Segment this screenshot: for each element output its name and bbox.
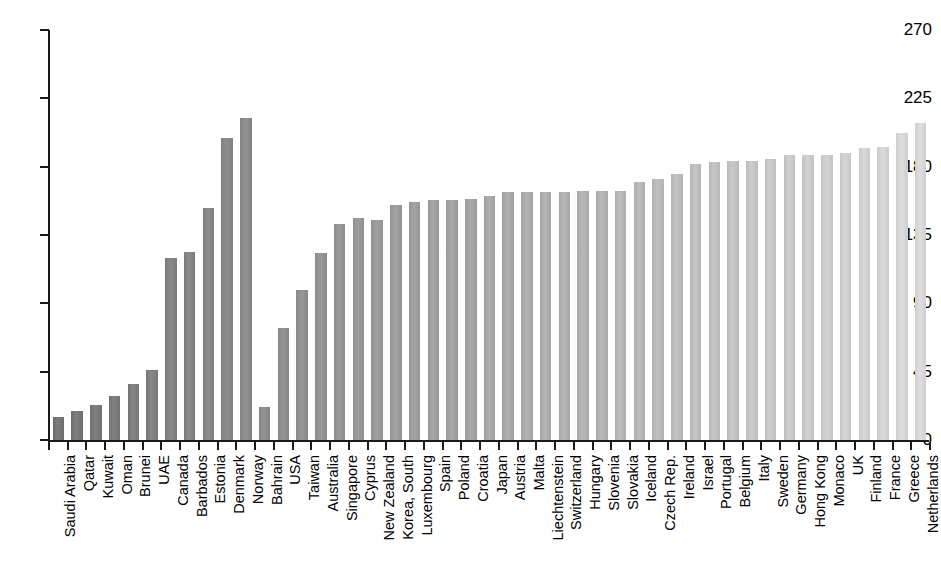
bar <box>915 123 927 440</box>
bar <box>877 147 889 440</box>
bar <box>821 155 833 440</box>
bar <box>128 384 140 440</box>
y-axis-tick <box>40 97 49 99</box>
x-axis-tick <box>760 442 762 450</box>
bar <box>577 191 589 440</box>
x-axis-category-label: Australia <box>326 455 341 511</box>
bar <box>109 396 121 440</box>
bar <box>746 161 758 440</box>
bar <box>221 138 233 440</box>
bar <box>296 290 308 440</box>
x-axis-tick <box>873 442 875 450</box>
x-axis-tick <box>423 442 425 450</box>
x-axis-category-label: Korea, South <box>401 455 416 540</box>
bar <box>184 252 196 440</box>
x-axis-category-label: Finland <box>869 455 884 503</box>
x-axis-tick <box>348 442 350 450</box>
bar <box>90 405 102 440</box>
x-axis-tick <box>104 442 106 450</box>
bar <box>540 192 552 440</box>
x-axis-tick <box>142 442 144 450</box>
x-axis-category-label: Greece <box>907 455 922 503</box>
bar <box>615 191 627 440</box>
x-axis-tick <box>817 442 819 450</box>
bar <box>428 200 440 440</box>
x-axis-category-label: Belgium <box>738 455 753 507</box>
bar <box>690 164 702 440</box>
bar <box>465 199 477 440</box>
x-axis-tick <box>554 442 556 450</box>
x-axis-category-label: Barbados <box>195 455 210 517</box>
x-axis-tick <box>235 442 237 450</box>
x-axis-category-label: Japan <box>495 455 510 495</box>
x-axis-category-label: Qatar <box>82 455 97 491</box>
bar <box>259 407 271 440</box>
x-axis-tick <box>517 442 519 450</box>
x-axis-category-label: Estonia <box>213 455 228 503</box>
x-axis-category-label: Cyprus <box>363 455 378 501</box>
bar <box>71 411 83 440</box>
x-axis-category-label: France <box>888 455 903 500</box>
x-axis-category-label: Ireland <box>682 455 697 499</box>
x-axis-tick <box>254 442 256 450</box>
x-axis-tick <box>742 442 744 450</box>
bar <box>634 182 646 440</box>
bar <box>165 258 177 440</box>
x-axis-tick <box>123 442 125 450</box>
x-axis-category-label: Poland <box>457 455 472 500</box>
x-axis-category-label: Oman <box>120 455 135 495</box>
bar <box>446 200 458 440</box>
bar <box>371 220 383 440</box>
bar <box>840 153 852 440</box>
y-axis-tick <box>40 371 49 373</box>
x-axis-tick <box>592 442 594 450</box>
x-axis-tick <box>573 442 575 450</box>
x-axis-category-label: Germany <box>794 455 809 515</box>
bar <box>334 224 346 440</box>
x-axis-category-label: Canada <box>176 455 191 506</box>
x-axis-category-label: Slovakia <box>626 455 641 510</box>
bar <box>765 159 777 440</box>
y-axis-tick <box>40 166 49 168</box>
x-axis-tick <box>217 442 219 450</box>
bar <box>203 208 215 440</box>
bar <box>390 205 402 440</box>
x-axis-tick <box>892 442 894 450</box>
bar <box>315 253 327 440</box>
x-axis-category-label: Singapore <box>345 455 360 521</box>
x-axis-category-label: Israel <box>701 455 716 490</box>
x-axis-tick <box>854 442 856 450</box>
bar <box>671 174 683 440</box>
x-axis-category-label: Croatia <box>476 455 491 502</box>
y-axis-tick <box>40 302 49 304</box>
x-axis-tick <box>310 442 312 450</box>
x-axis-tick <box>610 442 612 450</box>
x-axis-tick <box>367 442 369 450</box>
x-axis-category-label: Brunei <box>138 455 153 497</box>
x-axis-tick <box>535 442 537 450</box>
x-axis-category-label: Taiwan <box>307 455 322 500</box>
x-axis-tick <box>329 442 331 450</box>
bar <box>802 155 814 440</box>
x-axis-tick <box>85 442 87 450</box>
bar <box>278 328 290 440</box>
x-axis-tick <box>67 442 69 450</box>
x-axis-category-label: Hong Kong <box>813 455 828 528</box>
x-axis-category-label: Luxembourg <box>420 455 435 536</box>
bar <box>709 162 721 440</box>
bar <box>409 202 421 440</box>
x-axis-tick <box>404 442 406 450</box>
bar <box>896 133 908 440</box>
y-axis-tick <box>40 234 49 236</box>
bar <box>559 192 571 440</box>
x-axis-category-label: USA <box>288 455 303 485</box>
bar <box>859 148 871 440</box>
x-axis-category-label: Hungary <box>588 455 603 510</box>
x-axis-tick <box>442 442 444 450</box>
x-axis-category-label: Portugal <box>719 455 734 509</box>
x-axis-tick <box>498 442 500 450</box>
y-axis-tick <box>40 29 49 31</box>
bar <box>53 417 65 440</box>
x-axis-category-label: Sweden <box>776 455 791 507</box>
